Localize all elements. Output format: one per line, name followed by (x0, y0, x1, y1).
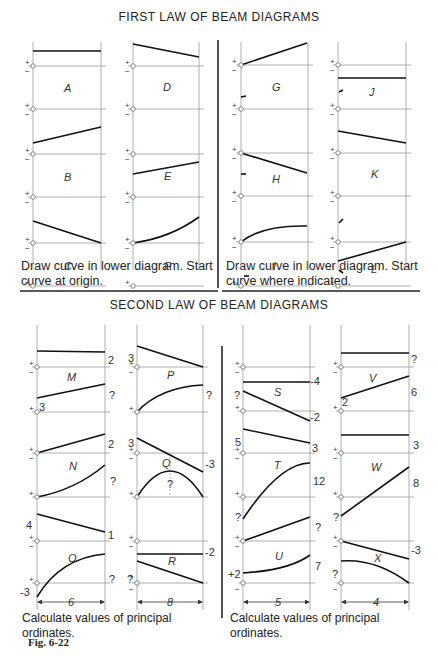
svg-text:1: 1 (108, 529, 114, 541)
panel-label-c: C (64, 260, 72, 272)
svg-text:-3: -3 (20, 586, 30, 598)
svg-text:M: M (67, 371, 77, 383)
svg-text:+: + (25, 146, 30, 155)
svg-text:+: + (333, 403, 338, 412)
svg-text:?: ? (315, 521, 321, 533)
svg-text:+: + (330, 278, 335, 287)
svg-text:3: 3 (312, 442, 318, 454)
svg-text:V: V (369, 372, 378, 384)
svg-text:−: − (232, 197, 237, 206)
svg-text:+: + (232, 188, 237, 197)
svg-text:+: + (129, 445, 134, 454)
panel-label-l: L (371, 263, 377, 275)
svg-text:?: ? (206, 389, 212, 401)
beam-diagrams-figure: A B C D E F G H I J K L (0, 0, 438, 669)
svg-text:?: ? (333, 511, 339, 523)
svg-text:6: 6 (411, 386, 417, 398)
svg-text:-3: -3 (205, 458, 215, 470)
svg-text:+: + (25, 235, 30, 244)
svg-text:U: U (275, 550, 283, 562)
svg-text:+: + (125, 146, 130, 155)
svg-text:−: − (25, 110, 30, 119)
svg-text:−: − (333, 585, 338, 594)
svg-text:−: − (125, 155, 130, 164)
svg-text:S: S (274, 386, 282, 398)
panel-label-a: A (63, 82, 71, 94)
svg-text:−: − (232, 243, 237, 252)
svg-text:+: + (25, 189, 30, 198)
svg-text:-4: -4 (310, 375, 320, 387)
span-5: 5 (275, 596, 282, 608)
svg-text:−: − (25, 244, 30, 253)
svg-text:+: + (29, 533, 34, 542)
svg-text:+: + (129, 572, 134, 581)
svg-text:−: − (333, 368, 338, 377)
svg-text:+: + (333, 489, 338, 498)
svg-text:4: 4 (26, 519, 32, 531)
svg-text:7: 7 (315, 560, 321, 572)
svg-text:+: + (330, 57, 335, 66)
svg-text:?: ? (109, 389, 115, 401)
svg-text:−: − (125, 67, 130, 76)
svg-text:+: + (330, 145, 335, 154)
svg-text:−: − (129, 454, 134, 463)
svg-text:+: + (232, 57, 237, 66)
svg-text:+: + (29, 445, 34, 454)
panel-label-k: K (371, 168, 379, 180)
panel-label-d: D (163, 81, 171, 93)
svg-text:−: − (129, 368, 134, 377)
svg-text:?: ? (167, 478, 173, 490)
svg-text:−: − (129, 542, 134, 551)
svg-text:8: 8 (413, 477, 419, 489)
span-4: 4 (373, 596, 379, 608)
svg-text:?: ? (235, 511, 241, 523)
svg-text:R: R (168, 555, 176, 567)
svg-text:−: − (25, 155, 30, 164)
svg-text:+: + (330, 101, 335, 110)
svg-text:+: + (330, 188, 335, 197)
svg-text:−: − (125, 198, 130, 207)
svg-text:−: − (129, 585, 134, 594)
svg-text:2: 2 (108, 354, 114, 366)
panel-label-e: E (164, 170, 172, 182)
svg-text:+: + (232, 145, 237, 154)
svg-text:N: N (69, 460, 77, 472)
svg-text:−: − (333, 542, 338, 551)
svg-text:+: + (330, 234, 335, 243)
svg-text:+: + (125, 189, 130, 198)
span-6: 6 (68, 596, 75, 608)
svg-text:W: W (371, 461, 383, 473)
svg-text:−: − (232, 110, 237, 119)
svg-text:−: − (125, 244, 130, 253)
svg-text:+: + (235, 445, 240, 454)
svg-text:T: T (274, 459, 282, 471)
svg-text:+: + (235, 403, 240, 412)
svg-text:+: + (29, 359, 34, 368)
panel-label-h: H (272, 173, 280, 185)
svg-text:+: + (125, 278, 130, 287)
svg-text:+: + (25, 278, 30, 287)
svg-text:−: − (235, 585, 240, 594)
svg-text:+: + (129, 359, 134, 368)
svg-text:−: − (235, 454, 240, 463)
svg-text:+: + (125, 235, 130, 244)
svg-text:+: + (125, 101, 130, 110)
svg-text:+: + (29, 404, 34, 413)
svg-text:+: + (232, 101, 237, 110)
svg-text:?: ? (109, 573, 115, 585)
panel-label-f: F (164, 260, 172, 272)
svg-text:2: 2 (342, 396, 348, 408)
svg-text:+: + (333, 359, 338, 368)
svg-text:−: − (330, 110, 335, 119)
svg-text:−: − (235, 368, 240, 377)
svg-text:−: − (333, 454, 338, 463)
svg-text:-3: -3 (411, 544, 421, 556)
svg-text:−: − (25, 198, 30, 207)
svg-text:−: − (232, 66, 237, 75)
svg-text:X: X (373, 552, 382, 564)
svg-text:+: + (29, 489, 34, 498)
svg-text:+: + (235, 533, 240, 542)
svg-text:Q: Q (162, 457, 171, 469)
svg-text:12: 12 (313, 475, 325, 487)
svg-text:−: − (330, 66, 335, 75)
